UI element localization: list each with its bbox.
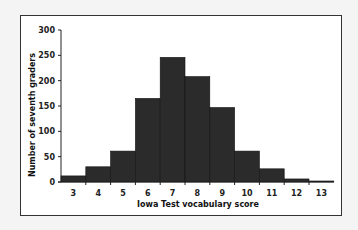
bar-8 (185, 77, 210, 182)
x-axis-title: Iowa Test vocabulary score (137, 200, 260, 209)
y-tick-label: 250 (38, 51, 55, 60)
x-tick-label: 9 (219, 189, 225, 198)
x-tick-label: 8 (195, 189, 201, 198)
y-tick-label: 100 (38, 127, 55, 136)
x-tick-label: 7 (170, 189, 176, 198)
x-tick-label: 4 (95, 189, 101, 198)
bar-5 (111, 151, 136, 182)
x-axis: 345678910111213 (58, 182, 334, 198)
bar-7 (160, 57, 185, 182)
bar-11 (259, 169, 284, 182)
y-tick-label: 50 (44, 153, 56, 162)
y-axis-title: Number of seventh graders (28, 53, 37, 177)
x-tick-label: 13 (316, 189, 327, 198)
x-tick-label: 3 (71, 189, 77, 198)
bars-group (61, 57, 334, 182)
x-tick-label: 10 (241, 189, 253, 198)
x-tick-label: 5 (120, 189, 126, 198)
x-tick-label: 6 (145, 189, 151, 198)
bar-10 (235, 151, 260, 182)
bar-3 (61, 176, 86, 182)
bar-9 (210, 108, 235, 182)
y-axis: 050100150200250300 (38, 26, 61, 187)
x-tick-label: 11 (266, 189, 278, 198)
x-tick-label: 12 (291, 189, 302, 198)
y-tick-label: 150 (38, 102, 55, 111)
histogram-chart: 050100150200250300 345678910111213 Iowa … (0, 0, 358, 230)
bar-6 (135, 98, 160, 182)
y-tick-label: 0 (49, 178, 55, 187)
y-tick-label: 300 (38, 26, 55, 35)
bar-4 (86, 167, 111, 182)
y-tick-label: 200 (38, 77, 55, 86)
